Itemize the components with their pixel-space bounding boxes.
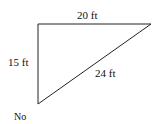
left-side-label: 15 ft <box>8 57 28 68</box>
triangle-shape <box>38 24 151 104</box>
hypotenuse-label: 24 ft <box>95 68 115 79</box>
top-side-label: 20 ft <box>77 10 97 21</box>
answer-label: No <box>14 112 26 122</box>
